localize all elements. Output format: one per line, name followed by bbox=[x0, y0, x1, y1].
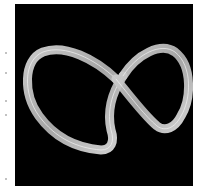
margin-mark bbox=[5, 100, 7, 102]
margin-mark bbox=[5, 178, 7, 180]
margin-mark bbox=[5, 72, 7, 74]
margin-mark bbox=[5, 114, 7, 116]
image-canvas bbox=[15, 4, 193, 186]
margin-mark bbox=[5, 52, 7, 54]
figure-eight-ribbon-icon bbox=[15, 4, 193, 186]
